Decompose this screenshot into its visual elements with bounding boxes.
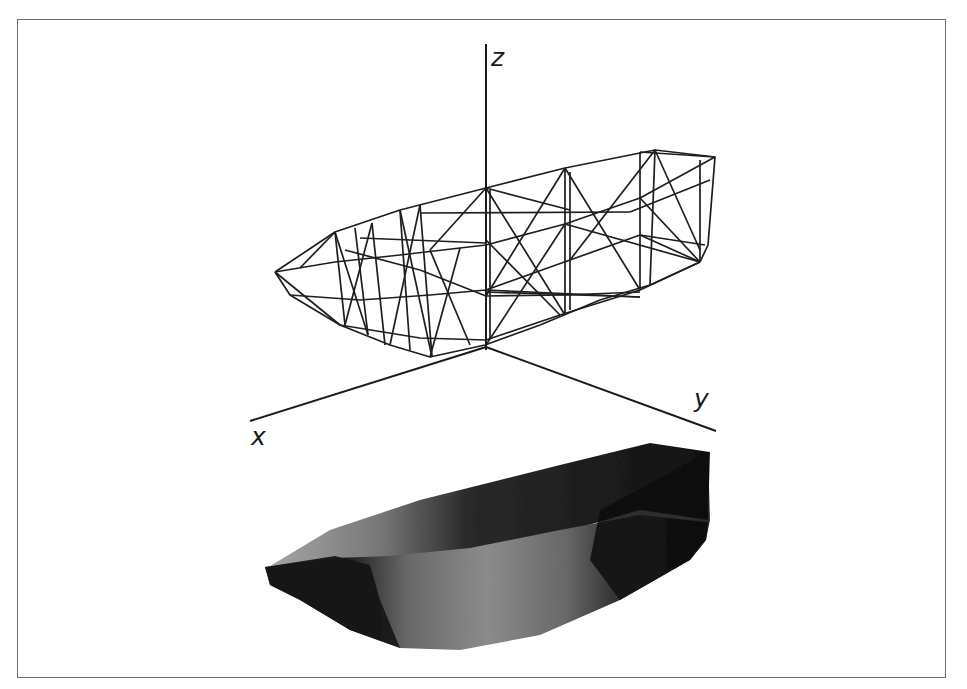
figure-canvas [0, 0, 967, 689]
z-axis-label: z [491, 45, 504, 70]
x-axis-label: x [251, 424, 266, 449]
y-axis [486, 347, 716, 431]
y-axis-label: y [694, 386, 709, 411]
wireframe-hull [275, 150, 715, 357]
solid-hull [265, 443, 710, 650]
x-axis [250, 347, 486, 421]
